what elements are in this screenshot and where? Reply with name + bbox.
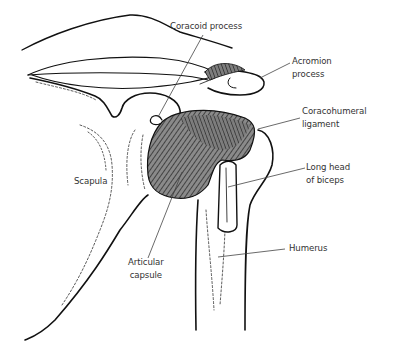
leader-acromion-process — [260, 63, 290, 78]
leader-humerus — [218, 249, 285, 257]
label-long-head-of-biceps: Long head of biceps — [306, 161, 350, 186]
label-scapula: Scapula — [74, 175, 107, 188]
bone-outlines — [22, 15, 273, 340]
leader-long-head-of-biceps — [228, 168, 305, 187]
leader-coracoid-process — [158, 35, 203, 117]
leader-coracohumeral-ligament — [258, 118, 300, 129]
label-acromion-process: Acromion process — [292, 55, 332, 80]
label-coracoid-process: Coracoid process — [170, 20, 242, 33]
label-humerus: Humerus — [289, 242, 327, 255]
label-coracohumeral-ligament: Coracohumeral ligament — [302, 105, 366, 130]
label-articular-capsule: Articular capsule — [128, 256, 164, 281]
shoulder-anatomy-diagram: Coracoid process Acromion process Coraco… — [0, 0, 396, 359]
